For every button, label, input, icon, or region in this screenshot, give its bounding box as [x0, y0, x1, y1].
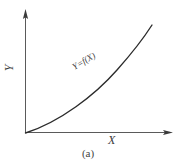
function-curve — [26, 25, 153, 133]
plot-area — [0, 0, 176, 166]
x-axis-label: X — [108, 134, 115, 146]
y-axis-label: Y — [3, 65, 15, 72]
figure-caption: (a) — [0, 148, 176, 159]
figure-panel: Y X Y=f(X) (a) — [0, 0, 176, 166]
